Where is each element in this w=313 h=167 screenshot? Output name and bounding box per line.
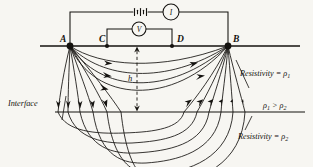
inequality-left-sub: 1 [267,105,270,111]
resistivity-lower-prefix: Resistivity = [237,132,279,141]
resistivity-upper-label: Resistivity =ρ1 [239,69,290,79]
paper-background [0,0,313,167]
electrode-label-d: D [176,34,184,44]
electrode-label-b: B [232,34,239,44]
interface-label: Interface [7,99,38,108]
resistivity-upper-prefix: Resistivity = [239,69,281,78]
voltmeter: V [132,22,146,36]
resistivity-lower-label: Resistivity =ρ2 [237,132,288,142]
ammeter: I [163,4,179,20]
electrode-label-a: A [59,34,66,44]
inequality-right-sub: 2 [283,105,286,111]
electrode-marker-a[interactable] [67,43,74,50]
resistivity-diagram-figure: I V [0,0,313,167]
ammeter-label: I [169,8,173,17]
svg-text:Resistivity =ρ2: Resistivity =ρ2 [237,132,288,142]
electrode-label-c: C [99,34,106,44]
electrode-marker-d[interactable] [170,44,174,48]
depth-label: h [128,73,132,83]
electrode-marker-b[interactable] [225,43,232,50]
resistivity-upper-sub: 1 [287,73,290,79]
svg-text:Resistivity =ρ1: Resistivity =ρ1 [239,69,290,79]
diagram-canvas: I V [0,0,313,167]
resistivity-inequality-label: ρ1>ρ2 [262,101,286,111]
svg-text:ρ1>ρ2: ρ1>ρ2 [262,101,286,111]
electrode-marker-c[interactable] [105,44,109,48]
inequality-operator: > [272,101,278,110]
resistivity-lower-sub: 2 [285,136,288,142]
